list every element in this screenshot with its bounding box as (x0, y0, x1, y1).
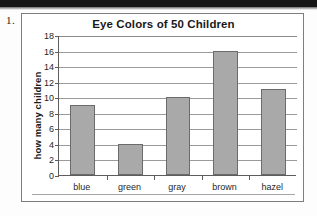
bar-slot (107, 35, 155, 175)
y-axis-tick-label: 6 (49, 124, 54, 134)
y-axis-tick-label: 10 (44, 93, 54, 103)
y-axis-tick-label: 18 (44, 31, 54, 41)
bar-slot (249, 35, 297, 175)
y-axis-tick-mark (55, 176, 59, 177)
plot-wrapper: 024681012141618 (58, 36, 296, 176)
bar-hazel[interactable] (261, 89, 286, 175)
bar-slot (154, 35, 202, 175)
bar-slot (202, 35, 250, 175)
plot-area: 024681012141618 (58, 36, 296, 176)
worksheet-item-number: 1. (6, 14, 15, 26)
y-axis-tick-label: 14 (44, 62, 54, 72)
x-axis-tick-mark (154, 176, 155, 180)
y-axis-tick-label: 0 (49, 171, 54, 181)
chart-title: Eye Colors of 50 Children (22, 18, 305, 30)
x-axis-label-green: green (106, 182, 154, 192)
x-axis-label-blue: blue (58, 182, 106, 192)
label-separator-line (32, 194, 295, 195)
scan-artifact-gradient (0, 7, 317, 10)
y-axis-tick-label: 12 (44, 78, 54, 88)
gridline (59, 175, 297, 176)
y-axis-tick-label: 4 (49, 140, 54, 150)
bar-blue[interactable] (70, 105, 95, 175)
bar-slot (59, 35, 107, 175)
y-axis-tick-label: 8 (49, 109, 54, 119)
bar-gray[interactable] (166, 97, 191, 175)
y-axis-tick-label: 2 (49, 155, 54, 165)
bar-brown[interactable] (213, 51, 238, 175)
x-axis-label-hazel: hazel (248, 182, 296, 192)
x-axis-label-brown: brown (201, 182, 249, 192)
x-axis-tick-mark (202, 176, 203, 180)
x-axis-tick-labels: bluegreengraybrownhazel (58, 182, 296, 192)
y-axis-tick-label: 16 (44, 47, 54, 57)
y-axis-label: how many children (32, 61, 43, 171)
x-axis-tick-mark (249, 176, 250, 180)
bar-green[interactable] (118, 144, 143, 175)
scan-artifact-band (0, 0, 317, 7)
chart-frame: Eye Colors of 50 Children how many child… (21, 13, 304, 202)
x-axis-tick-mark (107, 176, 108, 180)
x-axis-label-gray: gray (153, 182, 201, 192)
bar-series (59, 35, 297, 175)
